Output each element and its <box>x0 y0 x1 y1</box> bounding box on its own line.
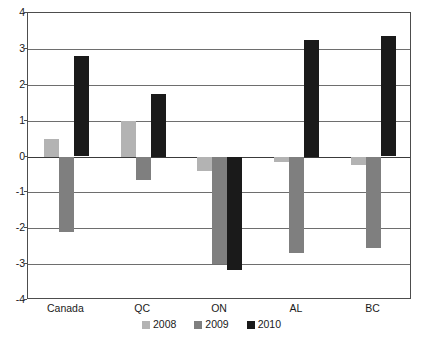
legend-swatch-icon <box>194 321 202 329</box>
bar-chart: 43210-1-2-3-4 CanadaQCONALBC 20082009201… <box>0 0 423 341</box>
bar-al-2010[interactable] <box>304 40 319 157</box>
y-tick-label: -3 <box>3 258 25 268</box>
bar-group <box>335 13 412 298</box>
y-tick-label: 3 <box>3 43 25 53</box>
bar-qc-2009[interactable] <box>136 157 151 180</box>
y-tick-label: -4 <box>3 294 25 304</box>
y-tick-label: -2 <box>3 222 25 232</box>
legend-label: 2010 <box>258 319 281 330</box>
y-tick-label: 2 <box>3 79 25 89</box>
bar-qc-2008[interactable] <box>121 121 136 157</box>
bar-group <box>28 13 105 298</box>
bar-al-2008[interactable] <box>274 157 289 162</box>
bar-qc-2010[interactable] <box>151 94 166 157</box>
plot-area <box>27 12 411 299</box>
x-tick-label-canada: Canada <box>47 301 84 315</box>
bar-group <box>182 13 259 298</box>
y-tick-label: -1 <box>3 186 25 196</box>
bar-canada-2008[interactable] <box>44 139 59 157</box>
y-tick-label: 4 <box>3 7 25 17</box>
legend-label: 2008 <box>153 319 176 330</box>
bar-group <box>258 13 335 298</box>
y-tick-label: 0 <box>3 151 25 161</box>
x-tick-label-on: ON <box>211 301 227 315</box>
bar-on-2010[interactable] <box>227 157 242 270</box>
bar-on-2008[interactable] <box>197 157 212 171</box>
bar-bc-2009[interactable] <box>366 157 381 248</box>
x-tick-label-qc: QC <box>134 301 150 315</box>
bar-group <box>105 13 182 298</box>
legend-item-2008[interactable]: 2008 <box>142 319 176 330</box>
bar-canada-2010[interactable] <box>74 56 89 156</box>
x-tick-label-al: AL <box>289 301 302 315</box>
bar-bc-2010[interactable] <box>381 36 396 156</box>
x-axis-labels: CanadaQCONALBC <box>27 301 411 317</box>
x-tick-label-bc: BC <box>365 301 380 315</box>
legend-swatch-icon <box>142 321 150 329</box>
chart-legend: 200820092010 <box>0 319 423 330</box>
legend-item-2009[interactable]: 2009 <box>194 319 228 330</box>
legend-swatch-icon <box>247 321 255 329</box>
y-axis: 43210-1-2-3-4 <box>0 12 25 299</box>
y-tick-label: 1 <box>3 115 25 125</box>
bar-bc-2008[interactable] <box>351 157 366 166</box>
legend-item-2010[interactable]: 2010 <box>247 319 281 330</box>
y-tick-mark <box>24 299 27 300</box>
bar-canada-2009[interactable] <box>59 157 74 232</box>
legend-label: 2009 <box>205 319 228 330</box>
bar-al-2009[interactable] <box>289 157 304 254</box>
bar-on-2009[interactable] <box>212 157 227 265</box>
